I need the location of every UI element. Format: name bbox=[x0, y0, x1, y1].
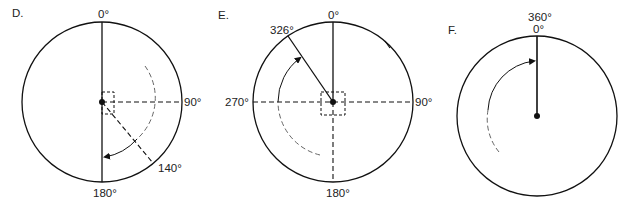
diagram-d-label-0: 0° bbox=[98, 8, 109, 20]
diagram-d-dashed-140 bbox=[102, 102, 153, 163]
diagram-d-label-140: 140° bbox=[158, 162, 182, 174]
diagram-d-label-180: 180° bbox=[93, 187, 117, 199]
diagram-f-arc-dashed bbox=[487, 110, 499, 152]
diagram-e-label-270: 270° bbox=[225, 96, 249, 108]
diagram-d-arc-arrow-icon bbox=[105, 139, 137, 157]
diagram-e-label-90: 90° bbox=[415, 96, 432, 108]
diagram-f-label: F. bbox=[448, 24, 457, 36]
diagram-f-label-360: 360° bbox=[528, 11, 552, 23]
diagram-e-label-180: 180° bbox=[326, 187, 350, 199]
diagram-d: D. 0° 90° 180° 140° bbox=[12, 7, 201, 199]
diagram-e-arc-dashed bbox=[278, 102, 320, 155]
diagram-d-center-dot bbox=[99, 99, 105, 105]
diagram-d-label: D. bbox=[12, 7, 24, 19]
diagram-e-center-dot bbox=[330, 99, 336, 105]
diagram-d-label-90: 90° bbox=[184, 96, 201, 108]
diagram-f-arc-arrow-icon bbox=[488, 61, 534, 110]
diagram-e-label-326: 326° bbox=[270, 24, 294, 36]
diagram-e-label-0: 0° bbox=[328, 9, 339, 21]
diagram-f: F. 360° 0° bbox=[448, 11, 617, 196]
diagram-f-center-dot bbox=[534, 113, 540, 119]
compass-bearing-diagrams: D. 0° 90° 180° 140° E. 0° 90° 180° 270° … bbox=[0, 0, 632, 210]
diagram-e-arc-arrow-icon bbox=[278, 58, 300, 102]
diagram-f-label-0: 0° bbox=[533, 23, 544, 35]
diagram-e: E. 0° 90° 180° 270° 326° bbox=[218, 9, 432, 199]
diagram-e-label: E. bbox=[218, 9, 229, 21]
